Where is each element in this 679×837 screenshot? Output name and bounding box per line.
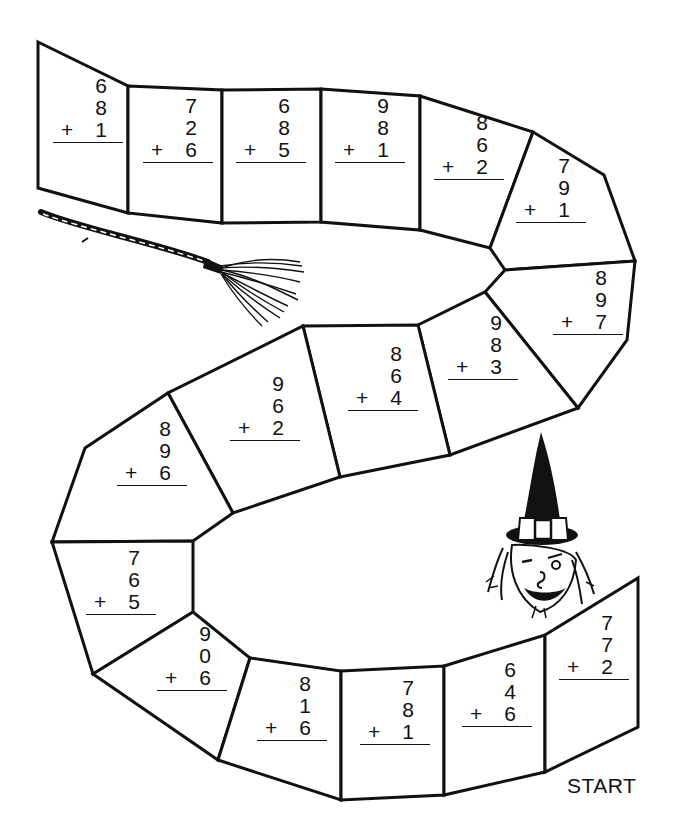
addend-1: 8 — [476, 111, 504, 134]
addend-1: 8 — [159, 417, 187, 440]
problem-14: 8 1 +6 — [257, 673, 327, 741]
witch-head-icon — [486, 432, 594, 618]
problem-16: 6 4 +6 — [462, 659, 532, 727]
addend-3: 1 — [95, 118, 123, 141]
addend-3: 6 — [159, 461, 187, 484]
addend-3: 2 — [601, 655, 629, 678]
addend-2: 9 — [595, 288, 623, 311]
addend-3: 5 — [278, 138, 306, 161]
addend-3: 2 — [476, 155, 504, 178]
plus-sign: + — [335, 139, 355, 161]
addend-2: 8 — [402, 698, 430, 721]
addend-3: 2 — [272, 416, 300, 439]
addend-1: 7 — [185, 94, 213, 117]
problem-12: 7 6 +5 — [86, 547, 156, 615]
plus-sign: + — [157, 667, 177, 689]
addend-2: 6 — [272, 394, 300, 417]
addend-3: 1 — [377, 138, 405, 161]
plus-sign: + — [462, 703, 482, 725]
addend-3: 7 — [595, 310, 623, 333]
addend-2: 6 — [476, 133, 504, 156]
problem-8: 9 8 +3 — [448, 312, 518, 380]
plus-sign: + — [360, 721, 380, 743]
addend-2: 8 — [377, 116, 405, 139]
broom-icon — [41, 212, 304, 326]
problem-15: 7 8 +1 — [360, 677, 430, 745]
addend-3: 6 — [299, 716, 327, 739]
addend-1: 9 — [490, 311, 518, 334]
plus-sign: + — [348, 387, 368, 409]
addend-1: 9 — [199, 622, 227, 645]
addend-3: 6 — [185, 138, 213, 161]
plus-sign: + — [53, 119, 73, 141]
addend-1: 6 — [504, 658, 532, 681]
addend-2: 4 — [504, 680, 532, 703]
problem-13: 9 0 +6 — [157, 623, 227, 691]
addend-3: 5 — [128, 590, 156, 613]
start-label: START — [567, 774, 636, 798]
addend-1: 6 — [95, 74, 123, 97]
problem-7: 8 9 +7 — [553, 267, 623, 335]
addend-1: 7 — [402, 676, 430, 699]
addend-1: 8 — [390, 342, 418, 365]
plus-sign: + — [553, 311, 573, 333]
addend-3: 4 — [390, 386, 418, 409]
addend-2: 2 — [185, 116, 213, 139]
addend-1: 6 — [278, 94, 306, 117]
addend-1: 8 — [595, 266, 623, 289]
plus-sign: + — [257, 717, 277, 739]
addend-2: 8 — [490, 333, 518, 356]
addend-1: 7 — [128, 546, 156, 569]
problem-4: 9 8 +1 — [335, 95, 405, 163]
addend-2: 8 — [95, 96, 123, 119]
plus-sign: + — [448, 356, 468, 378]
problem-2: 7 2 +6 — [143, 95, 213, 163]
addend-2: 0 — [199, 644, 227, 667]
plus-sign: + — [86, 591, 106, 613]
addend-2: 9 — [159, 439, 187, 462]
plus-sign: + — [516, 199, 536, 221]
problem-17: 7 7 +2 — [559, 612, 629, 680]
addend-1: 7 — [601, 611, 629, 634]
problem-1: 6 8 +1 — [53, 75, 123, 143]
addend-3: 6 — [199, 666, 227, 689]
problem-9: 8 6 +4 — [348, 343, 418, 411]
plus-sign: + — [559, 656, 579, 678]
addend-3: 3 — [490, 355, 518, 378]
addend-3: 1 — [558, 198, 586, 221]
plus-sign: + — [117, 462, 137, 484]
addend-1: 9 — [377, 94, 405, 117]
addend-3: 6 — [504, 702, 532, 725]
plus-sign: + — [143, 139, 163, 161]
addend-2: 8 — [278, 116, 306, 139]
plus-sign: + — [236, 139, 256, 161]
problem-10: 9 6 +2 — [230, 373, 300, 441]
addend-1: 7 — [558, 154, 586, 177]
addend-2: 7 — [601, 633, 629, 656]
plus-sign: + — [434, 156, 454, 178]
problem-3: 6 8 +5 — [236, 95, 306, 163]
problem-5: 8 6 +2 — [434, 112, 504, 180]
addend-1: 9 — [272, 372, 300, 395]
addend-2: 9 — [558, 176, 586, 199]
addend-3: 1 — [402, 720, 430, 743]
addend-2: 1 — [299, 694, 327, 717]
plus-sign: + — [230, 417, 250, 439]
problem-6: 7 9 +1 — [516, 155, 586, 223]
addend-2: 6 — [128, 568, 156, 591]
addend-2: 6 — [390, 364, 418, 387]
addend-1: 8 — [299, 672, 327, 695]
problem-11: 8 9 +6 — [117, 418, 187, 486]
